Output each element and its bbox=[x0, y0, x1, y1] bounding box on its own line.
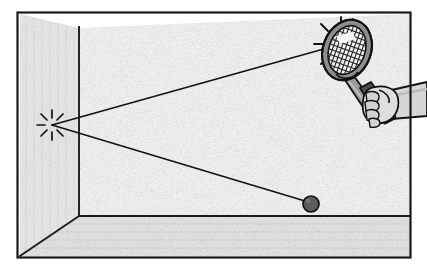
squash-ball bbox=[303, 196, 319, 212]
court-floor bbox=[18, 212, 414, 260]
illustration-canvas bbox=[0, 0, 427, 274]
squash-court-diagram bbox=[0, 0, 427, 274]
